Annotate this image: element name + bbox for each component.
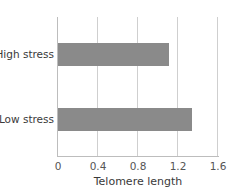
x-tick-0.4: 0.4 (90, 160, 107, 172)
x-tick-1.2: 1.2 (170, 160, 187, 172)
x-axis-title: Telomere length (94, 175, 183, 188)
gridline-0.4 (97, 17, 98, 156)
x-axis-line (57, 156, 219, 157)
gridline-1.6 (217, 17, 218, 156)
x-tick-1.6: 1.6 (210, 160, 227, 172)
x-tick-0: 0 (55, 160, 62, 172)
category-label-low-stress: Low stress (0, 113, 54, 125)
telomere-bar-chart: High stress Low stress 0 0.4 0.8 1.2 1.6… (0, 0, 238, 196)
gridline-0.8 (137, 17, 138, 156)
gridline-1.2 (177, 17, 178, 156)
category-label-high-stress: High stress (0, 48, 54, 60)
y-axis-line (57, 17, 58, 157)
x-tick-0.8: 0.8 (130, 160, 147, 172)
bar-high-stress (58, 43, 169, 66)
bar-low-stress (58, 108, 192, 131)
